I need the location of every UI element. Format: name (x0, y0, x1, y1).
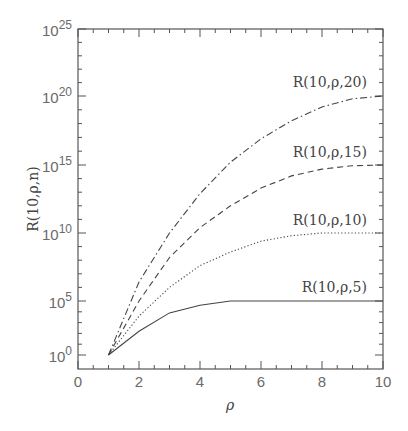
y-tick-label: 100 (49, 344, 73, 365)
x-tick-label: 6 (257, 373, 265, 390)
curve-solid (109, 301, 384, 355)
y-tick-label: 1010 (42, 222, 72, 243)
x-tick-label: 8 (318, 373, 326, 390)
curve-label: R(10,ρ,5) (302, 279, 367, 295)
y-axis-title: R(10,ρ,n) (25, 166, 41, 231)
curve-label: R(10,ρ,10) (293, 212, 367, 228)
chart: 02468101001051010101510201025 R(10,ρ,20)… (0, 0, 408, 431)
curve-label: R(10,ρ,15) (293, 144, 367, 160)
curve-dashed (109, 165, 384, 355)
curve-label: R(10,ρ,20) (293, 74, 367, 90)
x-axis-title: ρ (225, 397, 235, 413)
y-tick-label: 1020 (42, 85, 72, 106)
curve-labels: R(10,ρ,20)R(10,ρ,15)R(10,ρ,10)R(10,ρ,5) (293, 74, 367, 295)
y-tick-label: 1025 (42, 18, 72, 39)
x-tick-label: 2 (135, 373, 143, 390)
x-tick-label: 0 (74, 373, 82, 390)
y-tick-label: 1015 (42, 154, 72, 175)
y-tick-label: 105 (49, 290, 73, 311)
x-tick-label: 10 (375, 373, 392, 390)
x-tick-label: 4 (196, 373, 204, 390)
